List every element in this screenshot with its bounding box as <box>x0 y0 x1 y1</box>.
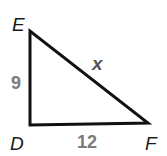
side-label-ef: x <box>91 53 104 74</box>
vertex-label-f: F <box>145 133 158 154</box>
vertex-label-e: E <box>12 14 25 35</box>
vertex-label-d: D <box>10 133 24 154</box>
side-label-df: 12 <box>77 132 97 152</box>
side-label-ed: 9 <box>11 73 21 93</box>
triangle-def <box>30 31 148 125</box>
triangle-diagram: E D F 9 12 x <box>0 0 167 156</box>
